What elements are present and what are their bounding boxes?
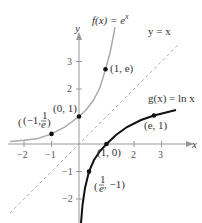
y-axis (76, 32, 82, 223)
exp-function-label: f(x) = ex (92, 12, 129, 27)
point-label-0-1: (0, 1) (53, 102, 77, 115)
svg-text:(−1,: (−1, (23, 114, 41, 127)
x-tick-label: 3 (158, 149, 163, 160)
y-tick-label: −1 (62, 166, 73, 177)
svg-text:, −1): , −1) (104, 178, 125, 191)
y-axis-label: y (74, 22, 80, 34)
point-log-e (152, 113, 157, 118)
point-label-e-1: (e, 1) (144, 119, 168, 132)
x-axis-label: x (191, 138, 197, 150)
x-tick-label: 2 (131, 149, 136, 160)
point-exp-neg1 (49, 132, 54, 137)
svg-text:e: e (41, 118, 46, 130)
point-exp-1 (103, 67, 108, 72)
point-label-1-e: (1, e) (110, 62, 134, 75)
point-exp-0 (77, 114, 82, 119)
point-label-inv-e-neg1: ( 1 e , −1) (94, 173, 125, 194)
svg-text:(: ( (94, 180, 98, 193)
y-tick-label: 2 (67, 83, 72, 94)
function-graph: −2 −1 2 3 3 2 −1 −2 y x f(x) = ex y = x … (0, 0, 202, 223)
svg-text:): ) (47, 116, 51, 129)
point-label-1-0: (1, 0) (97, 146, 121, 159)
y-tick-label: −2 (62, 193, 73, 204)
x-tick-label: −1 (45, 149, 56, 160)
y-tick-label: 3 (67, 56, 72, 67)
identity-label: y = x (148, 25, 171, 37)
log-function-label: g(x) = ln x (148, 92, 195, 105)
point-log-inv-e (87, 169, 92, 174)
x-tick-label: −2 (17, 149, 28, 160)
point-label-neg1-inv-e: ( (−1, 1 e ) (18, 109, 51, 130)
svg-text:(: ( (18, 116, 22, 129)
